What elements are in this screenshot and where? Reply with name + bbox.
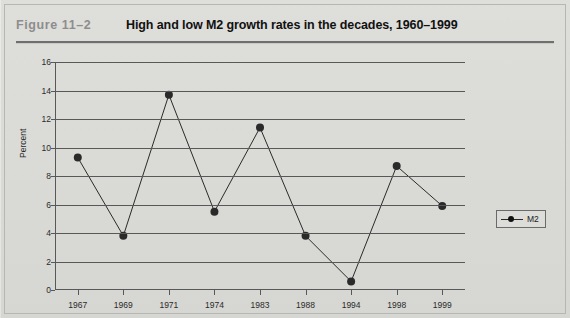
x-tick-label: 1983 [251, 300, 270, 310]
data-point [347, 277, 355, 285]
x-tick-label: 1999 [433, 300, 452, 310]
figure-page: Figure 11–2 High and low M2 growth rates… [0, 0, 570, 318]
x-tick-mark [442, 290, 443, 295]
figure-number-label: Figure 11–2 [16, 18, 91, 32]
y-tick-mark [51, 148, 55, 149]
chart-legend: M2 [496, 210, 546, 228]
x-tick-label: 1967 [68, 300, 87, 310]
x-tick-mark [214, 290, 215, 295]
y-tick-label: 4 [46, 228, 51, 238]
x-tick-mark [78, 290, 79, 295]
data-point [165, 91, 173, 99]
x-tick-label: 1974 [205, 300, 224, 310]
gridline [55, 233, 465, 234]
y-tick-mark [51, 91, 55, 92]
data-point [210, 208, 218, 216]
legend-marker-m2 [501, 215, 523, 224]
data-point [438, 202, 446, 210]
x-tick-label: 1971 [159, 300, 178, 310]
y-tick-mark [51, 176, 55, 177]
figure-title: High and low M2 growth rates in the deca… [126, 18, 458, 32]
y-tick-mark [51, 233, 55, 234]
gridline [55, 119, 465, 120]
gridline [55, 62, 465, 63]
x-tick-label: 1988 [296, 300, 315, 310]
y-tick-label: 10 [42, 143, 51, 153]
y-tick-label: 14 [42, 86, 51, 96]
data-point [393, 162, 401, 170]
y-tick-mark [51, 119, 55, 120]
x-tick-mark [351, 290, 352, 295]
gridline [55, 148, 465, 149]
x-tick-label: 1969 [114, 300, 133, 310]
y-axis-title: Percent [18, 129, 28, 158]
header-divider [16, 41, 554, 44]
plot-region: 0246810121416196719691971197419831988199… [55, 62, 465, 290]
y-tick-label: 16 [42, 57, 51, 67]
gridline [55, 262, 465, 263]
y-tick-mark [51, 290, 55, 291]
x-tick-mark [123, 290, 124, 295]
y-tick-label: 0 [46, 285, 51, 295]
y-tick-label: 6 [46, 200, 51, 210]
legend-label-m2: M2 [527, 214, 539, 224]
data-point [74, 153, 82, 161]
x-tick-label: 1998 [387, 300, 406, 310]
gridline [55, 91, 465, 92]
y-tick-mark [51, 62, 55, 63]
y-tick-mark [51, 205, 55, 206]
gridline [55, 176, 465, 177]
y-tick-label: 2 [46, 257, 51, 267]
figure-header: Figure 11–2 High and low M2 growth rates… [16, 16, 554, 42]
chart-area: Percent 02468101214161967196919711974198… [0, 50, 570, 315]
legend-dot-icon [508, 216, 514, 222]
data-point [256, 124, 264, 132]
y-tick-mark [51, 262, 55, 263]
x-tick-mark [306, 290, 307, 295]
x-tick-label: 1994 [342, 300, 361, 310]
gridline [55, 205, 465, 206]
y-tick-label: 12 [42, 114, 51, 124]
y-tick-label: 8 [46, 171, 51, 181]
x-tick-mark [260, 290, 261, 295]
x-tick-mark [169, 290, 170, 295]
x-tick-mark [397, 290, 398, 295]
